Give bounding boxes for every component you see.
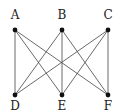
node-E — [60, 93, 65, 98]
node-D — [13, 93, 18, 98]
edges — [15, 30, 108, 95]
node-label-C: C — [103, 8, 112, 22]
node-A — [13, 28, 18, 33]
node-label-D: D — [10, 99, 20, 112]
node-F — [106, 93, 111, 98]
node-label-F: F — [104, 99, 112, 112]
node-label-E: E — [58, 99, 67, 112]
node-B — [60, 28, 65, 33]
bipartite-graph: ABCDEF — [0, 0, 119, 112]
node-label-B: B — [58, 8, 67, 22]
node-C — [106, 28, 111, 33]
node-label-A: A — [10, 8, 20, 22]
